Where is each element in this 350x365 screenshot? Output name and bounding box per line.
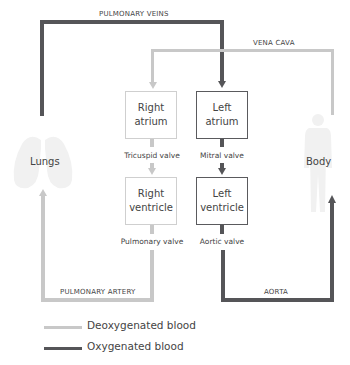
aorta-vertical-left	[221, 250, 225, 302]
tricuspid-valve-label: Tricuspid valve	[118, 151, 186, 160]
pulmonary-artery-horizontal	[41, 298, 154, 302]
pulmonary-veins-label: PULMONARY VEINS	[99, 10, 169, 18]
pulmonary-veins-horizontal	[40, 20, 224, 24]
arrow-down-icon	[149, 82, 157, 89]
right-ventricle-box: Rightventricle	[125, 177, 177, 225]
legend-label-oxygenated: Oxygenated blood	[87, 340, 184, 352]
pulmonary-veins-vertical-left	[40, 20, 44, 116]
legend-label-deoxygenated: Deoxygenated blood	[87, 319, 196, 331]
tricuspid-connector-top	[150, 139, 154, 147]
right-atrium-label-line1: Right	[134, 101, 167, 115]
vena-cava-vertical-left	[151, 49, 154, 83]
pulmonary-artery-vertical-left	[41, 196, 45, 302]
aorta-vertical-right	[330, 202, 334, 302]
right-atrium-box: Rightatrium	[125, 91, 177, 139]
left-atrium-box: Leftatrium	[196, 91, 248, 139]
aortic-valve-connector-top	[220, 225, 224, 234]
arrow-up-icon	[328, 195, 336, 203]
left-atrium-label-line2: atrium	[205, 115, 238, 129]
vena-cava-vertical-right	[331, 49, 334, 115]
legend-swatch-deoxygenated	[44, 326, 82, 329]
arrow-down-icon	[218, 81, 226, 88]
legend-swatch-oxygenated	[44, 347, 82, 350]
arrow-up-icon	[39, 189, 47, 196]
arrow-down-icon	[218, 168, 226, 175]
right-atrium-label-line2: atrium	[134, 115, 167, 129]
right-ventricle-label-line1: Right	[129, 187, 173, 201]
pulmonary-artery-vertical-right	[150, 250, 154, 302]
body-label: Body	[306, 156, 331, 167]
pulmonary-artery-label: PULMONARY ARTERY	[60, 288, 135, 296]
vena-cava-label: VENA CAVA	[253, 39, 295, 47]
pulmonary-valve-label: Pulmonary valve	[116, 237, 188, 246]
pulmonary-valve-connector-top	[150, 225, 154, 234]
aorta-horizontal	[221, 298, 334, 302]
left-ventricle-label-line1: Left	[200, 187, 244, 201]
vena-cava-horizontal	[151, 49, 334, 52]
mitral-valve-label: Mitral valve	[193, 151, 251, 160]
arrow-down-icon	[148, 168, 156, 175]
right-ventricle-label-line2: ventricle	[129, 201, 173, 215]
left-ventricle-box: Leftventricle	[196, 177, 248, 225]
aorta-label: AORTA	[264, 288, 288, 296]
aortic-valve-label: Aortic valve	[194, 237, 250, 246]
mitral-connector-top	[220, 139, 224, 147]
left-atrium-label-line1: Left	[205, 101, 238, 115]
lungs-label: Lungs	[30, 156, 60, 167]
left-ventricle-label-line2: ventricle	[200, 201, 244, 215]
